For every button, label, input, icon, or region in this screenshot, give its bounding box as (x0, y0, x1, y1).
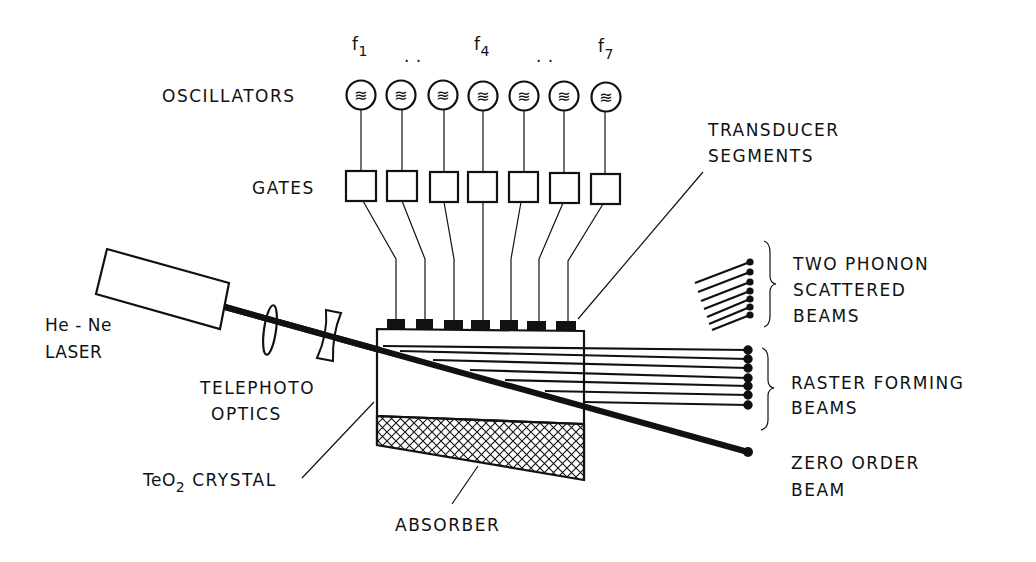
oscillator-icon: ≋ (347, 81, 376, 110)
gate-box (430, 172, 458, 202)
svg-text:≋: ≋ (517, 87, 530, 106)
oscillator-icon: ≋ (387, 81, 416, 110)
two-phonon-label-line3: BEAMS (793, 306, 860, 326)
oscillator-gate-wires (361, 110, 605, 173)
svg-text:≋: ≋ (394, 86, 407, 105)
svg-text:≋: ≋ (436, 86, 449, 105)
two-phonon-scattered-beams (695, 258, 754, 330)
absorber-label: ABSORBER (395, 515, 500, 535)
svg-text:≋: ≋ (557, 87, 570, 106)
oscillator-icon: ≋ (469, 82, 498, 111)
gate-transducer-wires (363, 201, 603, 321)
svg-text:≋: ≋ (354, 86, 367, 105)
he-ne-laser (96, 249, 229, 329)
freq-ellipsis-2: . . (536, 46, 554, 66)
oscillator-icon: ≋ (550, 82, 579, 111)
laser-label-line2: LASER (45, 342, 102, 362)
freq-label-f4: f4 (474, 34, 490, 59)
gate-box (509, 172, 538, 202)
laser-label-line1: He - Ne (45, 315, 112, 335)
two-phonon-label-line1: TWO PHONON (792, 254, 929, 274)
frequency-labels: f1 . . f4 . . f7 (352, 34, 614, 66)
crystal-leader-line (302, 402, 374, 478)
raster-brace (761, 348, 774, 430)
telephoto-label-line2: OPTICS (211, 404, 282, 424)
convex-lens-icon (261, 304, 280, 355)
gate-box (387, 171, 417, 201)
gate-box (550, 173, 579, 203)
zero-order-label-line2: BEAM (791, 480, 846, 500)
oscillators-label: OSCILLATORS (162, 86, 296, 106)
telephoto-optics (225, 304, 380, 361)
telephoto-label-line1: TELEPHOTO (199, 378, 315, 398)
svg-text:≋: ≋ (599, 88, 612, 107)
gates (346, 171, 620, 204)
absorber (377, 416, 584, 480)
oscillator-icon: ≋ (592, 83, 621, 112)
transducer-label-line1: TRANSDUCER (707, 120, 840, 140)
freq-ellipsis-1: . . (404, 46, 422, 66)
raster-label-line1: RASTER FORMING (791, 373, 964, 393)
transducer-leader-line (578, 172, 703, 319)
svg-text:≋: ≋ (476, 87, 489, 106)
gate-box (591, 174, 620, 204)
oscillator-icon: ≋ (429, 81, 458, 110)
oscillator-icon: ≋ (510, 82, 539, 111)
two-phonon-label-line2: SCATTERED (793, 280, 906, 300)
oscillators: ≋ ≋ ≋ ≋ ≋ ≋ ≋ (347, 81, 621, 112)
raster-label-line2: BEAMS (791, 398, 858, 418)
zero-order-label-line1: ZERO ORDER (791, 453, 920, 473)
gates-label: GATES (252, 178, 315, 198)
freq-label-f7: f7 (598, 36, 614, 62)
gate-box (468, 172, 497, 202)
absorber-leader-line (452, 466, 478, 504)
transducer-label-line2: SEGMENTS (708, 146, 814, 166)
diagram-canvas: f1 . . f4 . . f7 OSCILLATORS GATES ≋ ≋ ≋… (0, 0, 1036, 562)
gate-box (346, 171, 376, 201)
two-phonon-brace (764, 241, 776, 327)
crystal-label: TeO2 CRYSTAL (142, 470, 277, 495)
freq-label-f1: f1 (352, 34, 368, 59)
